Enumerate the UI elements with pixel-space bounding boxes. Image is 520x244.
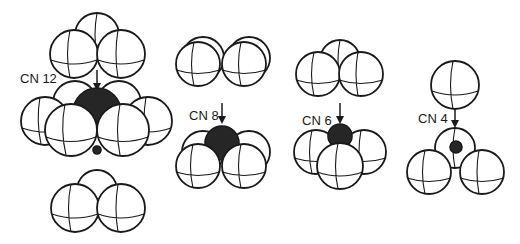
bottom-triad <box>51 170 145 232</box>
top-triad <box>50 13 145 78</box>
panel-cn4: CN 4 <box>407 61 504 194</box>
arrow-down-icon <box>218 103 226 124</box>
top-layer <box>176 37 270 86</box>
middle-ring <box>21 81 172 156</box>
label-cn4: CN 4 <box>418 111 448 126</box>
label-cn8: CN 8 <box>189 108 219 123</box>
label-cn12: CN 12 <box>20 71 57 86</box>
central-atom <box>450 141 462 153</box>
panel-cn6: CN 6 <box>294 40 386 189</box>
top-triad <box>296 40 383 96</box>
top-sphere <box>431 61 479 109</box>
bottom-triad <box>294 124 386 189</box>
coordination-number-diagram: CN 12 <box>0 0 520 244</box>
panel-cn8: CN 8 <box>176 37 270 188</box>
bottom-triad <box>407 128 504 194</box>
panel-cn12: CN 12 <box>20 13 172 232</box>
arrow-down-icon <box>336 103 344 124</box>
label-cn6: CN 6 <box>302 113 332 128</box>
bottom-layer <box>176 126 270 188</box>
arrow-down-icon <box>451 109 459 128</box>
